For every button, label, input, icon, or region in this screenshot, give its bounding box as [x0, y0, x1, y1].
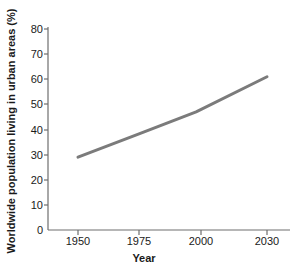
y-tick-label-50: 50: [31, 98, 43, 110]
y-tick-label-80: 80: [31, 23, 43, 35]
x-tick-label-1975: 1975: [127, 235, 151, 247]
x-tick-label-2000: 2000: [189, 235, 213, 247]
chart-figure: Worldwide population living in urban are…: [0, 0, 306, 272]
y-tick-label-40: 40: [31, 124, 43, 136]
y-tick-label-60: 60: [31, 73, 43, 85]
y-tick-label-20: 20: [31, 174, 43, 186]
x-tick-label-2030: 2030: [255, 235, 279, 247]
y-tick-label-10: 10: [31, 199, 43, 211]
y-tick-label-0: 0: [37, 224, 43, 236]
x-tick-label-1950: 1950: [66, 235, 90, 247]
y-axis-title: Worldwide population living in urban are…: [5, 8, 17, 253]
x-axis-title: Year: [132, 252, 156, 264]
data-series-line: [78, 77, 267, 157]
y-tick-label-30: 30: [31, 149, 43, 161]
line-chart: Worldwide population living in urban are…: [0, 0, 306, 272]
y-tick-label-70: 70: [31, 48, 43, 60]
